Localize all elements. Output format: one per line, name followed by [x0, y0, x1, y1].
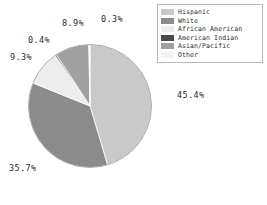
- pie-chart-graphic: [28, 44, 152, 168]
- legend-swatch-african-american: [161, 26, 174, 32]
- slice-label-white: 35.7%: [9, 163, 37, 173]
- legend-label-other: Other: [178, 51, 198, 59]
- slice-label-asian-pacific: 8.9%: [62, 18, 84, 28]
- legend-item-asian-pacific: Asian/Pacific: [161, 42, 259, 50]
- pie-chart-figure: 45.4% 35.7% 9.3% 0.4% 8.9% 0.3% Hispanic…: [0, 0, 267, 205]
- legend-swatch-white: [161, 18, 174, 24]
- legend-label-hispanic: Hispanic: [178, 8, 210, 16]
- legend-label-asian-pacific: Asian/Pacific: [178, 42, 230, 50]
- slice-label-american-indian: 0.4%: [28, 35, 50, 45]
- legend-swatch-hispanic: [161, 9, 174, 15]
- legend-item-white: White: [161, 17, 259, 25]
- slice-label-hispanic: 45.4%: [177, 90, 205, 100]
- pie-svg: [28, 44, 152, 168]
- chart-legend: Hispanic White African American American…: [157, 4, 263, 63]
- pie-slice-group: [28, 44, 151, 167]
- legend-swatch-american-indian: [161, 35, 174, 41]
- legend-item-other: Other: [161, 51, 259, 59]
- legend-label-african-american: African American: [178, 25, 242, 33]
- slice-label-other: 0.3%: [101, 14, 123, 24]
- legend-label-white: White: [178, 17, 198, 25]
- legend-item-hispanic: Hispanic: [161, 8, 259, 16]
- legend-swatch-other: [161, 52, 174, 58]
- legend-swatch-asian-pacific: [161, 43, 174, 49]
- legend-label-american-indian: American Indian: [178, 34, 238, 42]
- slice-label-african-american: 9.3%: [10, 52, 32, 62]
- legend-item-american-indian: American Indian: [161, 34, 259, 42]
- legend-item-african-american: African American: [161, 25, 259, 33]
